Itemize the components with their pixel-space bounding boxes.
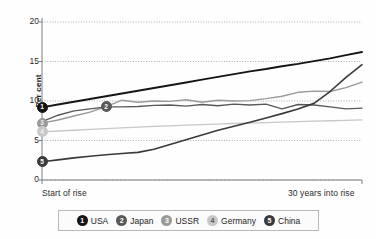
legend-item-ussr[interactable]: 3USSR [161,215,199,226]
legend-badge-icon: 5 [264,215,275,226]
legend-item-germany[interactable]: 4Germany [207,215,256,226]
data-point-marker-usa: 1 [37,102,48,113]
chart-legend: 1USA2Japan3USSR4Germany5China [58,210,319,231]
x-axis-start-label: Start of rise [42,188,87,198]
legend-badge-icon: 2 [116,215,127,226]
series-line-usa [42,52,362,107]
legend-item-china[interactable]: 5China [264,215,300,226]
series-line-japan [42,104,362,121]
legend-label: USSR [175,216,199,226]
legend-badge-icon: 3 [161,215,172,226]
x-axis-end-label: 30 years into rise [288,188,355,198]
legend-badge-icon: 4 [207,215,218,226]
legend-label: USA [91,216,108,226]
legend-label: Japan [130,216,153,226]
plot-area [0,0,376,239]
legend-item-usa[interactable]: 1USA [77,215,108,226]
data-point-marker-germany: 4 [37,126,48,137]
legend-label: Germany [221,216,256,226]
data-point-marker-japan: 2 [101,101,112,112]
legend-item-japan[interactable]: 2Japan [116,215,153,226]
series-line-germany [42,120,362,132]
legend-label: China [278,216,300,226]
data-point-marker-china: 5 [37,156,48,167]
legend-badge-icon: 1 [77,215,88,226]
chart-container: Per cent 05101520 Start of rise 30 years… [0,0,376,239]
